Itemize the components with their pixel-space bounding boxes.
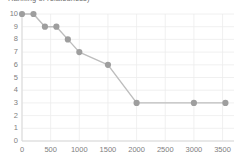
- series-line: [22, 14, 225, 103]
- data-point-marker[interactable]: [53, 24, 59, 30]
- chart-title: Ranking of relatedness): [8, 0, 90, 3]
- y-axis-tick-label: 10: [10, 10, 18, 18]
- x-axis-tick-label: 2000: [128, 145, 145, 154]
- data-point-marker[interactable]: [76, 49, 82, 55]
- y-axis-tick-label: 4: [14, 86, 18, 94]
- y-axis-tick-label: 2: [14, 112, 18, 120]
- data-point-marker[interactable]: [133, 100, 139, 106]
- data-series: [22, 14, 234, 141]
- y-axis-tick-label: 8: [14, 35, 18, 43]
- x-axis-tick-label: 3500: [214, 145, 231, 154]
- y-axis-tick-label: 7: [14, 48, 18, 56]
- y-axis-tick-label: 5: [14, 74, 18, 82]
- data-point-marker[interactable]: [19, 11, 25, 17]
- y-axis-tick-labels: 012345678910: [0, 14, 18, 141]
- y-axis-tick-label: 3: [14, 99, 18, 107]
- plot-area: [22, 14, 234, 141]
- data-point-marker[interactable]: [30, 11, 36, 17]
- line-chart: Ranking of relatedness) 012345678910 050…: [0, 0, 244, 164]
- data-point-marker[interactable]: [42, 24, 48, 30]
- x-axis-tick-label: 1000: [71, 145, 88, 154]
- x-axis-tick-label: 500: [44, 145, 57, 154]
- data-point-marker[interactable]: [65, 36, 71, 42]
- y-axis-tick-label: 1: [14, 124, 18, 132]
- x-axis-tick-label: 0: [20, 145, 24, 154]
- x-axis-tick-label: 3000: [186, 145, 203, 154]
- x-axis-tick-label: 2500: [157, 145, 174, 154]
- y-axis-tick-label: 9: [14, 23, 18, 31]
- y-axis-tick-label: 0: [14, 137, 18, 145]
- data-point-marker[interactable]: [105, 62, 111, 68]
- data-point-marker[interactable]: [191, 100, 197, 106]
- data-point-marker[interactable]: [222, 100, 228, 106]
- x-axis-tick-label: 1500: [100, 145, 117, 154]
- y-axis-tick-label: 6: [14, 61, 18, 69]
- x-axis-tick-labels: 0500100015002000250030003500: [22, 145, 234, 157]
